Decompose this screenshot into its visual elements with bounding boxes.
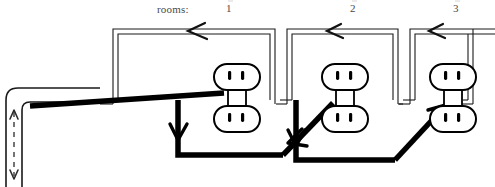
diagram-canvas: rooms: 1 2 3 [0,0,495,187]
outlet-3-slot-top-right [457,71,460,80]
wiring-diagram [0,0,495,187]
outlet-3-slot-bottom-left [444,113,447,122]
outlet-room-2 [322,64,368,132]
arrowhead-room-2 [327,24,343,38]
outlet-room-1 [214,64,260,132]
outlet-3-slot-top-left [444,71,447,80]
outlet-2-slot-bottom-right [349,113,352,122]
thin-loop-arrowheads [188,23,445,39]
entry-inner-curve [22,102,100,187]
outlet-3-socket-bottom [430,106,476,132]
outlet-2-socket-top [322,64,368,90]
arrowhead-room-3 [429,24,445,38]
arrowhead-room-1 [188,23,207,39]
scan-artifact [228,0,233,2]
outlet-2-slot-top-left [336,71,339,80]
outlets-group [214,64,476,132]
outlet-3-slot-bottom-right [457,113,460,122]
room-number-2: 2 [350,2,356,14]
outlet-1-slot-top-right [241,71,244,80]
dashed-riser [10,110,18,179]
outlet-1-socket-bottom [214,106,260,132]
outlet-1-socket-top [214,64,260,90]
outlet-1-slot-top-left [228,71,231,80]
scan-artifact [455,0,460,2]
room-number-3: 3 [453,2,459,14]
outlet-2-slot-top-right [349,71,352,80]
outlet-2-socket-bottom [322,106,368,132]
outlet-1-slot-bottom-left [228,113,231,122]
rooms-caption: rooms: [157,3,189,15]
outlet-room-3 [430,64,476,132]
outlet-3-socket-top [430,64,476,90]
outlet-1-slot-bottom-right [241,113,244,122]
outlet-2-slot-bottom-left [336,113,339,122]
thick-feeder-to-room-1 [30,93,224,106]
room-number-1: 1 [226,2,232,14]
scan-artifact [352,0,357,2]
